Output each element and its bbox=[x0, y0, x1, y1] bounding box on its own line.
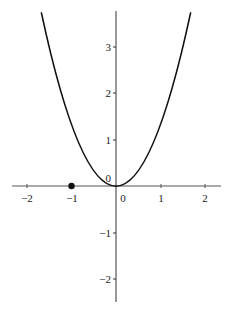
x-tick-label: 1 bbox=[158, 192, 164, 204]
x-tick-label: 0 bbox=[120, 192, 126, 204]
y-tick-label: 3 bbox=[106, 41, 112, 53]
x-tick-label: −2 bbox=[21, 192, 33, 204]
x-tick-label: −1 bbox=[66, 192, 78, 204]
root-point-marker bbox=[68, 183, 74, 189]
y-tick-label: −2 bbox=[99, 273, 111, 285]
y-tick-label: −1 bbox=[99, 227, 111, 239]
y-tick-label: 1 bbox=[106, 134, 112, 146]
y-tick-label: 0 bbox=[106, 172, 112, 184]
x-tick-label: 2 bbox=[202, 192, 208, 204]
y-tick-label: 2 bbox=[106, 87, 112, 99]
plot-canvas: −2 −1 0 1 2 3 2 1 0 −1 −2 bbox=[0, 0, 234, 311]
